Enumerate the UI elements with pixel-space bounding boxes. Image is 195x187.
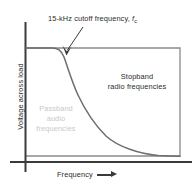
callout-arrowhead-icon	[63, 46, 72, 56]
y-axis-label: Voltage across load	[16, 42, 25, 152]
cutoff-annotation-subscript: c	[134, 18, 137, 24]
stopband-label-line2: radio frequencies	[94, 82, 180, 92]
filter-response-figure: 15-kHz cutoff frequency, fc Stopband rad…	[0, 0, 195, 187]
right-arrow-icon	[97, 171, 119, 178]
callout-leader-line	[68, 27, 84, 50]
x-axis-label: Frequency	[57, 170, 93, 179]
response-box-outline	[25, 48, 180, 156]
passband-label-line3: frequencies	[28, 124, 84, 134]
response-curve	[25, 48, 180, 156]
cutoff-frequency-annotation: 15-kHz cutoff frequency, fc	[48, 14, 137, 26]
stopband-label-line1: Stopband	[94, 72, 180, 82]
passband-region-label: Passband audio frequencies	[28, 104, 84, 134]
passband-label-line1: Passband	[28, 104, 84, 114]
cutoff-annotation-prefix: 15-kHz cutoff frequency,	[48, 14, 132, 23]
x-axis-label-group: Frequency	[57, 170, 119, 179]
stopband-region-label: Stopband radio frequencies	[94, 72, 180, 92]
chart-canvas	[0, 0, 195, 187]
passband-label-line2: audio	[28, 114, 84, 124]
